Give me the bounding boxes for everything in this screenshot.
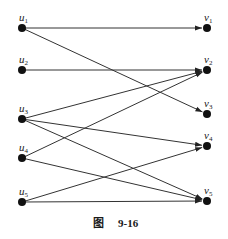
node-v1 [203, 24, 211, 32]
label-v2: v2 [204, 53, 213, 67]
edges-group [22, 28, 202, 202]
edge-u4-v2 [22, 72, 202, 158]
node-u2 [18, 66, 26, 74]
label-v3: v3 [204, 97, 213, 111]
node-v3 [203, 110, 211, 118]
node-v4 [203, 142, 211, 150]
label-u5: u5 [19, 185, 29, 199]
caption-number: 9-16 [118, 217, 139, 229]
edge-u3-v5 [22, 119, 202, 199]
node-u1 [18, 24, 26, 32]
caption-prefix: 图 [93, 217, 104, 229]
figure-caption: 图 9-16 [93, 217, 139, 229]
node-v5 [203, 197, 211, 205]
node-u4 [18, 154, 26, 162]
label-u3: u3 [19, 102, 29, 116]
label-v5: v5 [204, 184, 213, 198]
bipartite-graph: u1u2u3u4u5v1v2v3v4v5 图 9-16 [0, 0, 228, 239]
label-u4: u4 [19, 141, 29, 155]
edge-u3-v2 [22, 71, 202, 119]
label-v1: v1 [204, 11, 213, 25]
label-u2: u2 [19, 53, 29, 67]
edge-u5-v5 [22, 201, 202, 202]
edge-u3-v4 [22, 119, 202, 145]
node-u3 [18, 115, 26, 123]
label-u1: u1 [19, 11, 29, 25]
node-v2 [203, 66, 211, 74]
node-u5 [18, 198, 26, 206]
label-v4: v4 [204, 129, 213, 143]
